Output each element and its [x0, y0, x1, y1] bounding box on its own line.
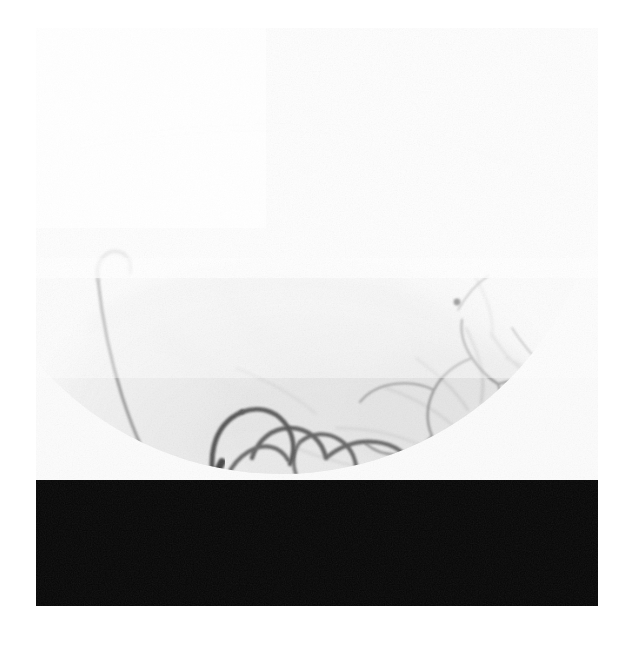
- film-falloff: [36, 28, 266, 228]
- angiogram-canvas: [36, 28, 598, 606]
- angiogram-image-frame: [36, 28, 598, 606]
- angiogram-viewport: [0, 0, 623, 647]
